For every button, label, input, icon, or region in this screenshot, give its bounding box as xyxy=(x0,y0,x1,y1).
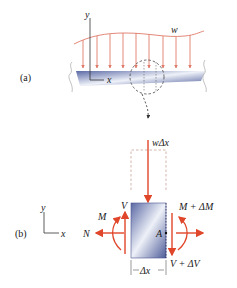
axis-y-label-b: y xyxy=(40,202,46,213)
load-resultant-label: wΔx xyxy=(152,137,170,148)
beam-diagram: (a) y x w wΔx (b) y x V M N xyxy=(0,0,237,288)
point-a xyxy=(165,232,167,234)
load-curve xyxy=(74,31,204,44)
axis-x-label-a: x xyxy=(106,74,112,85)
detail-arrow xyxy=(142,94,148,118)
axis-y-label-a: y xyxy=(84,9,90,20)
break-line-left xyxy=(69,62,72,92)
width-label: Δx xyxy=(139,265,151,276)
point-a-label: A xyxy=(155,228,163,239)
part-a-label: (a) xyxy=(20,72,31,84)
break-line-right xyxy=(203,60,206,92)
shear-right-label: V + ΔV xyxy=(170,258,202,269)
axis-x-label-b: x xyxy=(60,228,66,239)
beam xyxy=(76,71,205,86)
load-label-w: w xyxy=(171,24,178,35)
moment-right-label: M + ΔM xyxy=(178,201,214,212)
shear-left-label: V xyxy=(121,200,129,211)
part-a xyxy=(69,18,206,118)
moment-left-label: M xyxy=(97,211,107,222)
part-b-label: (b) xyxy=(15,228,27,240)
load-arrows xyxy=(83,33,190,68)
normal-left-label: N xyxy=(82,228,91,239)
